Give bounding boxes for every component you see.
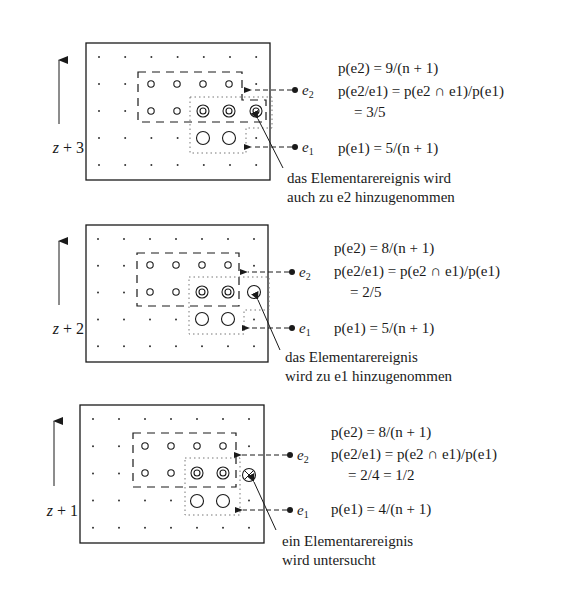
- intersection-circles: [196, 286, 234, 298]
- grid-dot: [248, 527, 250, 529]
- grid-dot: [123, 318, 125, 320]
- note-pointer: [254, 482, 276, 530]
- e2-label: e2: [299, 264, 311, 282]
- grid-dot: [92, 527, 94, 529]
- note-line-1: ein Elementarereignis: [282, 533, 413, 549]
- grid-dot: [97, 345, 99, 347]
- grid-dot: [203, 56, 205, 58]
- grid-dot: [144, 418, 146, 420]
- grid-dot: [92, 418, 94, 420]
- intersection-circles: [197, 105, 262, 117]
- step-label: z + 3: [52, 139, 84, 156]
- grid-dot: [201, 345, 203, 347]
- grid-dot: [222, 418, 224, 420]
- e2-marker-dot: [292, 87, 298, 93]
- grid-dot: [97, 292, 99, 294]
- note-line-1: das Elementarereignis: [285, 349, 418, 365]
- grid-dot: [98, 83, 100, 85]
- grid-dot: [175, 345, 177, 347]
- panel-z1: z + 1 e2 e1 p(e2) = 8/(n + 1) p(e2/e1) =…: [46, 405, 497, 568]
- examined-crossed-circle-icon: [243, 469, 256, 482]
- e1-label: e1: [302, 139, 314, 157]
- intersection-circles: [191, 467, 229, 479]
- e2-region: [137, 253, 239, 306]
- sample-space-frame: [86, 43, 270, 180]
- grid-dot: [92, 445, 94, 447]
- formula-p-e1: p(e1) = 5/(n + 1): [334, 320, 434, 337]
- grid-dot: [248, 500, 250, 502]
- grid-dot: [97, 318, 99, 320]
- formula-conditional: p(e2/e1) = p(e2 ∩ e1)/p(e1): [334, 263, 500, 280]
- grid-dot: [248, 418, 250, 420]
- grid-dot: [123, 238, 125, 240]
- grid-dot: [149, 238, 151, 240]
- e2-label: e2: [297, 447, 309, 465]
- note-line-2: auch zu e2 hinzugenommen: [287, 189, 455, 205]
- grid-dot: [124, 83, 126, 85]
- diagram-canvas: z + 3 e2 e1 p(e2) = 9/(n + 1) p(e2/e1) =…: [0, 0, 576, 601]
- note-line-2: wird zu e1 hinzugenommen: [285, 368, 453, 384]
- grid-dot: [170, 527, 172, 529]
- formula-conditional: p(e2/e1) = p(e2 ∩ e1)/p(e1): [338, 83, 504, 100]
- grid-dot: [124, 110, 126, 112]
- grid-dot: [98, 164, 100, 166]
- grid-dot: [123, 292, 125, 294]
- grid-dot: [253, 238, 255, 240]
- grid-dot: [150, 56, 152, 58]
- grid-dot: [98, 56, 100, 58]
- formula-conditional-result: = 2/5: [350, 284, 381, 300]
- step-label: z + 2: [52, 320, 84, 337]
- grid-dot: [118, 418, 120, 420]
- grid-dot: [97, 238, 99, 240]
- grid-dot: [196, 527, 198, 529]
- grid-dot: [123, 265, 125, 267]
- note-line-2: wird untersucht: [282, 552, 377, 568]
- grid-dot: [118, 472, 120, 474]
- grid-dot: [177, 137, 179, 139]
- grid-dot: [255, 56, 257, 58]
- note-line-1: das Elementarereignis wird: [287, 170, 452, 186]
- grid-dot: [98, 137, 100, 139]
- grid-dot: [144, 500, 146, 502]
- grid-dot: [201, 238, 203, 240]
- grid-dot: [150, 137, 152, 139]
- e2-only-circles: [147, 262, 231, 295]
- e1-marker-dot: [287, 507, 293, 513]
- e1-only-circles: [197, 132, 236, 145]
- grid-dot: [177, 164, 179, 166]
- panel-z2: z + 2 e2 e1 p(e2) = 8/(n + 1) p(e2/e1) =…: [52, 225, 500, 384]
- e1-label: e1: [297, 502, 309, 520]
- formula-conditional-result: = 2/4 = 1/2: [348, 467, 415, 483]
- grid-dot: [227, 238, 229, 240]
- formula-p-e2: p(e2) = 8/(n + 1): [334, 240, 434, 257]
- formula-conditional-result: = 3/5: [354, 104, 385, 120]
- e1-label: e1: [299, 320, 311, 338]
- formula-p-e1: p(e1) = 4/(n + 1): [331, 501, 431, 518]
- formula-conditional: p(e2/e1) = p(e2 ∩ e1)/p(e1): [331, 446, 497, 463]
- grid-dot: [203, 164, 205, 166]
- grid-dot: [255, 164, 257, 166]
- e2-marker-dot: [289, 269, 295, 275]
- grid-dots: [98, 56, 257, 166]
- grid-dot: [255, 137, 257, 139]
- e1-marker-dot: [292, 144, 298, 150]
- e2-only-circles: [142, 443, 226, 476]
- grid-dot: [98, 110, 100, 112]
- sample-space-frame: [86, 225, 268, 362]
- grid-dot: [253, 265, 255, 267]
- grid-dot: [253, 318, 255, 320]
- note-pointer: [258, 300, 280, 350]
- grid-dot: [196, 418, 198, 420]
- grid-dot: [170, 500, 172, 502]
- grid-dot: [229, 164, 231, 166]
- grid-dot: [92, 472, 94, 474]
- grid-dot: [118, 500, 120, 502]
- grid-dot: [123, 345, 125, 347]
- grid-dot: [144, 527, 146, 529]
- grid-dot: [118, 527, 120, 529]
- grid-dot: [124, 164, 126, 166]
- e2-region: [138, 72, 266, 122]
- e2-marker-dot: [287, 452, 293, 458]
- grid-dot: [227, 345, 229, 347]
- grid-dot: [255, 83, 257, 85]
